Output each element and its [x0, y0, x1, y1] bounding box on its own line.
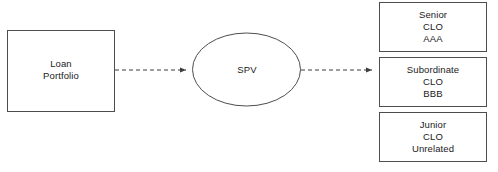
loan-portfolio-box: [8, 31, 115, 112]
spv-ellipse: [193, 33, 301, 106]
senior-tranche-box: [380, 3, 487, 52]
junior-tranche-box: [380, 113, 487, 162]
subordinate-tranche-box: [380, 58, 487, 107]
diagram-shapes: [0, 0, 498, 172]
diagram-canvas: Loan Portfolio SPV Senior CLO AAA Subord…: [0, 0, 498, 172]
